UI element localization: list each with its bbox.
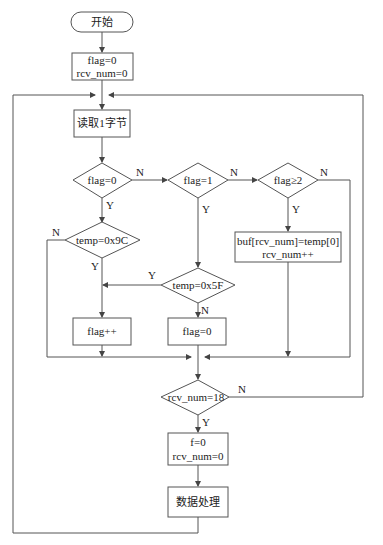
decision-temp-eq-5f: temp=0x5F Y N bbox=[148, 268, 235, 316]
decision-flag-ge-2: flag≥2 N Y bbox=[258, 163, 328, 215]
decision-label: flag=1 bbox=[184, 174, 213, 186]
decision-flag-eq-1: flag=1 N Y bbox=[168, 163, 238, 215]
decision-label: flag≥2 bbox=[274, 174, 303, 186]
decision-temp-eq-9c: temp=0x9C N Y bbox=[52, 222, 140, 272]
flag-reset-node: flag=0 bbox=[168, 318, 226, 345]
yes-label: Y bbox=[202, 203, 210, 215]
store-line2: rcv_num++ bbox=[262, 248, 314, 260]
init-node: flag=0 rcv_num=0 bbox=[72, 53, 133, 80]
process-data-node: 数据处理 bbox=[168, 487, 228, 517]
loop-back-line bbox=[13, 95, 198, 533]
store-line1: buf[rcv_num]=temp[0] bbox=[237, 235, 339, 247]
flag-inc-label: flag++ bbox=[87, 325, 117, 337]
store-byte-node: buf[rcv_num]=temp[0] rcv_num++ bbox=[235, 232, 341, 262]
no-label: N bbox=[320, 166, 328, 178]
read-node: 读取1字节 bbox=[74, 110, 130, 137]
no-label: N bbox=[136, 166, 144, 178]
flag-reset-label: flag=0 bbox=[183, 325, 212, 337]
yes-label: Y bbox=[292, 203, 300, 215]
start-label: 开始 bbox=[91, 15, 113, 28]
yes-label: Y bbox=[202, 416, 210, 428]
read-label: 读取1字节 bbox=[77, 116, 127, 129]
decision-rcv-num-eq-18: rcv_num=18 N Y bbox=[161, 380, 246, 428]
init-line1: flag=0 bbox=[88, 54, 117, 66]
init-line2: rcv_num=0 bbox=[77, 67, 128, 79]
yes-label: Y bbox=[106, 199, 114, 211]
no-label: N bbox=[238, 383, 246, 395]
flag-increment-node: flag++ bbox=[73, 318, 131, 345]
start-node: 开始 bbox=[71, 12, 133, 32]
process-label: 数据处理 bbox=[176, 495, 220, 508]
flag2-no-line bbox=[318, 180, 350, 357]
yes-label: Y bbox=[91, 260, 99, 272]
no-label: N bbox=[230, 166, 238, 178]
flowchart: 开始 flag=0 rcv_num=0 读取1字节 flag=0 N Y fla… bbox=[0, 0, 383, 545]
decision-label: rcv_num=18 bbox=[168, 391, 225, 403]
temp9c-no-line bbox=[47, 240, 65, 357]
decision-label: temp=0x9C bbox=[76, 234, 128, 246]
decision-flag-eq-0: flag=0 N Y bbox=[73, 163, 144, 211]
reset-node: f=0 rcv_num=0 bbox=[168, 433, 228, 465]
no-label: N bbox=[52, 226, 60, 238]
yes-label: Y bbox=[148, 269, 156, 281]
reset-line1: f=0 bbox=[190, 436, 206, 448]
no-label: N bbox=[201, 304, 209, 316]
decision-label: flag=0 bbox=[88, 174, 117, 186]
decision-label: temp=0x5F bbox=[173, 279, 224, 291]
reset-line2: rcv_num=0 bbox=[173, 450, 224, 462]
